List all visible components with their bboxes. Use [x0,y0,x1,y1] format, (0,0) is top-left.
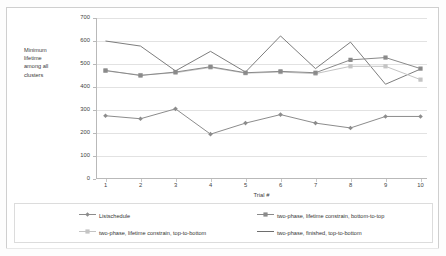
series-0-point-9 [383,114,388,119]
series-1-point-10 [418,67,422,71]
series-1-point-7 [313,71,317,75]
series-1-point-1 [103,68,107,72]
chart-legend: Listschedule two-phase, lifetime constra… [14,203,433,243]
bottom-divider [6,248,439,249]
series-1-point-3 [173,70,177,74]
series-1-point-2 [138,73,142,77]
series-0-point-1 [103,113,108,118]
legend-label-0: Listschedule [99,213,130,219]
legend-label-2: two-phase, lifetime constrain, top-to-bo… [99,230,206,236]
series-2-point-9 [383,64,387,68]
series-1-point-4 [208,65,212,69]
legend-marker-listschedule [79,211,96,218]
legend-point-0 [85,212,90,217]
legend-marker-bottom-to-top [257,211,274,218]
legend-label-3: two-phase, finished, top-to-bottom [277,230,362,236]
series-1-point-9 [383,55,387,59]
series-line-0 [106,109,421,134]
series-2-point-10 [418,78,422,82]
legend-marker-finished-top-to-bottom [257,228,274,235]
series-1-point-5 [243,71,247,75]
x-axis-title: Trial # [96,192,427,198]
screenshot-canvas: Minimum lifetime among all clusters 7006… [0,0,446,256]
series-0-point-5 [243,121,248,126]
legend-point-1 [263,212,267,216]
series-0-point-8 [348,126,353,131]
series-1-point-6 [278,69,282,73]
series-line-3 [106,36,421,84]
series-2-point-8 [348,64,352,68]
series-0-point-6 [278,112,283,117]
series-1-point-8 [348,58,352,62]
series-0-point-7 [313,121,318,126]
series-line-2 [106,66,421,79]
series-0-point-10 [418,114,423,119]
legend-point-2 [85,229,89,233]
series-0-point-2 [138,116,143,121]
legend-marker-top-to-bottom [79,228,96,235]
legend-label-1: two-phase, lifetime constrain, bottom-to… [277,213,384,219]
